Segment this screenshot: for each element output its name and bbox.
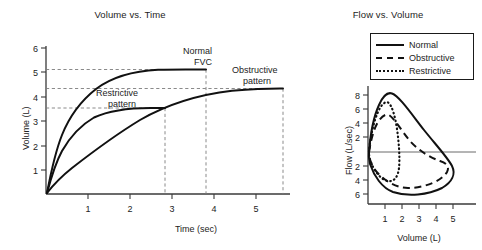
x-tick-labels: 1 2 3 4 5 (85, 204, 258, 214)
y-tick-labels: 8 6 4 2 2 4 6 (355, 91, 360, 200)
y-axis-ticks (363, 95, 368, 194)
y-axis-ticks (41, 48, 46, 170)
loop-restrictive (369, 102, 399, 181)
annotation-restrictive-line1: Restrictive (96, 88, 138, 98)
x-tick-labels: 1 2 3 4 5 (382, 214, 455, 224)
svg-text:4: 4 (355, 176, 360, 186)
svg-text:2: 2 (127, 204, 132, 214)
svg-text:5: 5 (253, 204, 258, 214)
annotation-obstructive-line2: pattern (243, 76, 271, 86)
svg-text:1: 1 (382, 214, 387, 224)
svg-text:4: 4 (211, 204, 216, 214)
guide-lines (46, 70, 283, 195)
svg-text:3: 3 (33, 117, 38, 127)
y-tick-labels: 6 5 4 3 2 1 (33, 44, 38, 176)
y-axis-title: Volume (L) (21, 106, 31, 150)
panel-flow-volume: Flow vs. Volume Normal Obstructive Restr… (300, 0, 482, 250)
svg-text:1: 1 (85, 204, 90, 214)
svg-text:4: 4 (355, 119, 360, 129)
flow-volume-plot: 8 6 4 2 2 4 6 1 2 3 4 5 Volume (L) (300, 0, 482, 250)
svg-text:2: 2 (355, 162, 360, 172)
svg-text:4: 4 (433, 214, 438, 224)
x-axis-title: Time (sec) (175, 224, 217, 234)
x-axis-ticks (385, 204, 453, 209)
svg-text:5: 5 (33, 68, 38, 78)
svg-text:3: 3 (169, 204, 174, 214)
svg-text:3: 3 (416, 214, 421, 224)
svg-text:8: 8 (355, 91, 360, 101)
annotation-normal-fvc-line1: Normal (183, 46, 212, 56)
panel-volume-time: Volume vs. Time (0, 0, 300, 250)
spirometry-figure: Volume vs. Time (0, 0, 482, 250)
svg-text:2: 2 (355, 133, 360, 143)
svg-text:2: 2 (33, 142, 38, 152)
x-axis-ticks (88, 194, 256, 199)
svg-text:5: 5 (450, 214, 455, 224)
curve-obstructive (47, 88, 283, 193)
x-axis-title: Volume (L) (397, 233, 441, 243)
annotation-restrictive-line2: pattern (108, 99, 136, 109)
annotation-normal-fvc-line2: FVC (194, 57, 213, 67)
annotation-obstructive-line1: Obstructive (232, 65, 278, 75)
volume-time-plot: Normal FVC Obstructive pattern Restricti… (0, 0, 300, 250)
y-axis-title: Flow (L/sec) (344, 126, 354, 175)
svg-text:1: 1 (33, 166, 38, 176)
svg-text:4: 4 (33, 93, 38, 103)
svg-text:6: 6 (355, 190, 360, 200)
svg-text:6: 6 (355, 105, 360, 115)
svg-text:2: 2 (399, 214, 404, 224)
svg-text:6: 6 (33, 44, 38, 54)
curve-restrictive (47, 108, 165, 193)
